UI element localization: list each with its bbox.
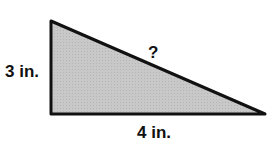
horizontal-leg-label: 4 in. [137,123,171,142]
triangle-diagram: 3 in. ? 4 in. [0,0,273,143]
vertical-leg-label: 3 in. [5,62,39,81]
right-triangle [51,21,265,114]
hypotenuse-label: ? [148,43,158,62]
